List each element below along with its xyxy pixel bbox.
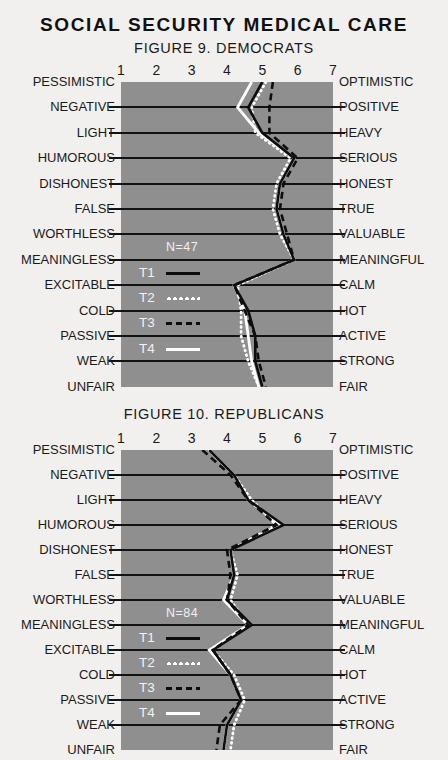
scale-number-2: 2 (146, 62, 166, 78)
scale-number-3: 3 (182, 62, 202, 78)
series-line-t1 (209, 450, 283, 750)
scale-number-2: 2 (146, 430, 166, 446)
scale-number-5: 5 (252, 62, 272, 78)
scale-number-3: 3 (182, 430, 202, 446)
scale-number-5: 5 (252, 430, 272, 446)
data-lines (0, 82, 448, 427)
chart-republicans: 1234567PESSIMISTICNEGATIVELIGHTHUMOROUSD… (0, 428, 448, 760)
figure-page: SOCIAL SECURITY MEDICAL CARE FIGURE 9. D… (0, 0, 448, 760)
scale-number-4: 4 (217, 62, 237, 78)
scale-number-4: 4 (217, 430, 237, 446)
scale-number-6: 6 (288, 430, 308, 446)
chart-democrats: 1234567PESSIMISTICNEGATIVELIGHTHUMOROUSD… (0, 60, 448, 405)
series-line-t2 (209, 450, 276, 750)
series-line-t2 (238, 82, 295, 387)
scale-number-6: 6 (288, 62, 308, 78)
figure-10-title: FIGURE 10. REPUBLICANS (0, 406, 448, 422)
data-lines (0, 450, 448, 760)
page-title: SOCIAL SECURITY MEDICAL CARE (0, 14, 448, 36)
figure-9-title: FIGURE 9. DEMOCRATS (0, 40, 448, 56)
